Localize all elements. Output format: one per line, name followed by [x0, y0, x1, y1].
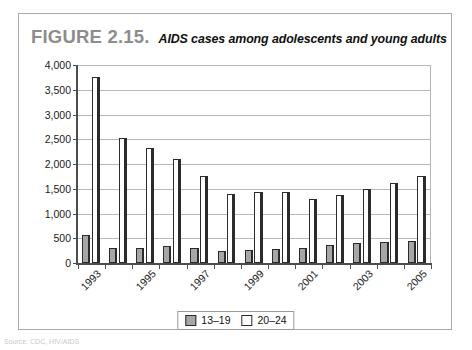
legend-swatch	[185, 315, 196, 326]
y-axis-tick-label: 1,500	[45, 183, 71, 195]
x-axis-tick	[404, 263, 405, 269]
bar-group	[377, 65, 404, 263]
legend-item: 20–24	[242, 314, 287, 326]
bar-group	[105, 65, 132, 263]
bar-13-19	[326, 245, 334, 263]
bar-20-24	[363, 189, 371, 263]
bar-13-19	[353, 243, 361, 263]
y-axis-tick-label: 2,000	[45, 158, 71, 170]
chart-plot-area: 05001,0001,5002,0002,5003,0003,5004,000 …	[76, 65, 431, 265]
bar-20-24	[200, 176, 208, 263]
bar-13-19	[109, 248, 117, 263]
bar-13-19	[245, 250, 253, 263]
bar-group	[78, 65, 105, 263]
bar-13-19	[299, 248, 307, 263]
x-axis-tick-label: 2005	[404, 267, 429, 292]
y-axis-tick-label: 500	[53, 232, 71, 244]
figure-number-label: FIGURE 2.15.	[31, 26, 150, 48]
x-axis-tick-label: 1999	[241, 267, 266, 292]
y-axis-tick-label: 3,000	[45, 109, 71, 121]
x-axis-tick	[322, 263, 323, 269]
x-axis-tick-label: 2003	[350, 267, 375, 292]
bar-20-24	[336, 195, 344, 263]
figure-caption: AIDS cases among adolescents and young a…	[159, 32, 447, 46]
x-axis-tick	[159, 263, 160, 269]
bar-group	[159, 65, 186, 263]
bar-13-19	[218, 251, 226, 263]
bar-20-24	[227, 194, 235, 263]
bar-13-19	[163, 246, 171, 263]
x-axis-tick	[268, 263, 269, 269]
y-axis-tick-label: 3,500	[45, 84, 71, 96]
bar-13-19	[190, 248, 198, 263]
x-axis-tick-label: 1997	[187, 267, 212, 292]
x-axis-tick	[241, 263, 242, 269]
source-note: Source: CDC, HIV/AIDS	[4, 338, 304, 345]
x-axis-tick	[214, 263, 215, 269]
bar-20-24	[173, 159, 181, 263]
y-axis-tick-label: 4,000	[45, 59, 71, 71]
x-axis-tick	[350, 263, 351, 269]
bar-group	[322, 65, 349, 263]
chart-legend: 13–1920–24	[177, 311, 294, 330]
bar-13-19	[380, 242, 388, 263]
y-axis-tick-label: 1,000	[45, 208, 71, 220]
bar-20-24	[119, 138, 127, 263]
bar-series-container	[78, 65, 431, 263]
figure-card: FIGURE 2.15. AIDS cases among adolescent…	[18, 13, 452, 330]
bar-group	[295, 65, 322, 263]
bar-group	[187, 65, 214, 263]
bar-group	[404, 65, 431, 263]
x-axis-tick	[187, 263, 188, 269]
legend-item: 13–19	[185, 314, 230, 326]
bar-group	[350, 65, 377, 263]
bar-20-24	[309, 199, 317, 263]
x-axis-tick	[431, 263, 432, 269]
figure-title-row: FIGURE 2.15. AIDS cases among adolescent…	[31, 26, 443, 52]
bar-20-24	[146, 148, 154, 263]
x-axis-tick-label: 1995	[133, 267, 158, 292]
y-axis-tick-label: 2,500	[45, 133, 71, 145]
bar-13-19	[136, 248, 144, 263]
bar-20-24	[92, 77, 100, 263]
bar-group	[214, 65, 241, 263]
bar-group	[268, 65, 295, 263]
bar-13-19	[272, 249, 280, 263]
y-axis-tick-label: 0	[65, 257, 71, 269]
bar-20-24	[282, 192, 290, 263]
x-axis-tick	[78, 263, 79, 269]
x-axis-tick-label: 1993	[78, 267, 103, 292]
x-axis-tick-label: 2001	[296, 267, 321, 292]
bar-13-19	[82, 235, 90, 263]
bar-20-24	[390, 183, 398, 263]
bar-20-24	[417, 176, 425, 263]
x-axis-tick	[295, 263, 296, 269]
legend-swatch	[242, 315, 253, 326]
legend-label: 20–24	[258, 314, 287, 326]
x-axis-tick	[132, 263, 133, 269]
legend-label: 13–19	[201, 314, 230, 326]
bar-13-19	[408, 241, 416, 263]
bar-20-24	[254, 192, 262, 263]
x-axis-tick	[105, 263, 106, 269]
bar-group	[132, 65, 159, 263]
chart-plot-wrapper: 05001,0001,5002,0002,5003,0003,5004,000 …	[30, 58, 442, 320]
x-axis-tick	[377, 263, 378, 269]
bar-group	[241, 65, 268, 263]
